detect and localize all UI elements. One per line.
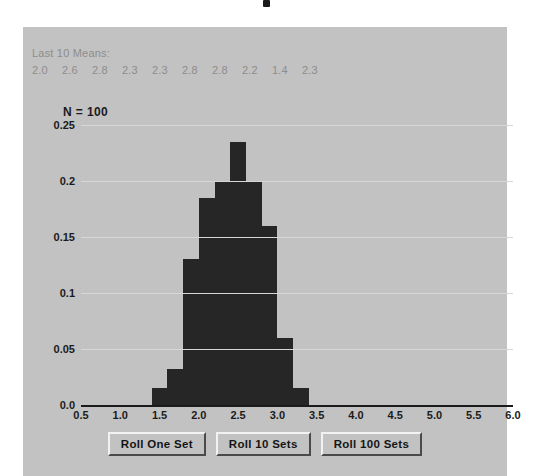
x-axis-tick-label: 3.0 (270, 409, 285, 421)
roll-10-sets-button[interactable]: Roll 10 Sets (216, 432, 311, 456)
y-axis-tick-label: 0.1 (60, 287, 75, 299)
histogram-bar (167, 369, 183, 405)
x-axis-line (81, 405, 513, 407)
grid-line (81, 237, 513, 238)
histogram-bar (152, 388, 168, 405)
histogram-bar (183, 259, 199, 405)
last-means-values: 2.02.62.82.32.32.82.82.21.42.3 (32, 63, 452, 78)
histogram-bars (81, 125, 513, 405)
x-axis-tick-label: 4.5 (388, 409, 403, 421)
x-axis-tick-label: 3.5 (309, 409, 324, 421)
histogram-chart: 0.00.050.10.150.20.250.51.01.52.02.53.03… (23, 27, 507, 476)
x-axis-tick-label: 6.0 (505, 409, 520, 421)
histogram-bar (262, 226, 278, 405)
x-axis-tick-label: 0.5 (73, 409, 88, 421)
mean-value: 2.0 (32, 63, 62, 78)
grid-line (81, 293, 513, 294)
x-axis-tick-label: 1.5 (152, 409, 167, 421)
histogram-bar (199, 198, 215, 405)
sample-size-label: N = 100 (63, 105, 108, 119)
button-row: Roll One SetRoll 10 SetsRoll 100 Sets (23, 429, 507, 459)
grid-line (81, 181, 513, 182)
mean-value: 2.8 (212, 63, 242, 78)
mean-value: 2.3 (152, 63, 182, 78)
mean-value: 2.8 (182, 63, 212, 78)
mean-value: 2.3 (302, 63, 332, 78)
grid-line (81, 349, 513, 350)
mean-value: 2.3 (122, 63, 152, 78)
x-axis-tick-label: 2.0 (191, 409, 206, 421)
grid-line (81, 125, 513, 126)
roll-100-sets-button[interactable]: Roll 100 Sets (321, 432, 423, 456)
mean-value: 2.6 (62, 63, 92, 78)
roll-one-set-button[interactable]: Roll One Set (108, 432, 206, 456)
y-axis-tick-label: 0.05 (54, 343, 75, 355)
x-axis-tick-label: 1.0 (113, 409, 128, 421)
mean-value: 2.2 (242, 63, 272, 78)
y-axis-tick-label: 0.25 (54, 119, 75, 131)
histogram-bar (277, 338, 293, 405)
histogram-bar (293, 388, 309, 405)
x-axis-tick-label: 5.5 (466, 409, 481, 421)
x-axis-tick-label: 4.0 (348, 409, 363, 421)
mean-value: 1.4 (272, 63, 302, 78)
last-means-title: Last 10 Means: (32, 47, 452, 60)
y-axis-tick-label: 0.2 (60, 175, 75, 187)
mean-value: 2.8 (92, 63, 122, 78)
y-axis-tick-label: 0.15 (54, 231, 75, 243)
window-title-artifact (263, 0, 270, 7)
x-axis-tick-label: 2.5 (230, 409, 245, 421)
last-means-block: Last 10 Means: 2.02.62.82.32.32.82.82.21… (32, 47, 452, 78)
x-axis-tick-label: 5.0 (427, 409, 442, 421)
